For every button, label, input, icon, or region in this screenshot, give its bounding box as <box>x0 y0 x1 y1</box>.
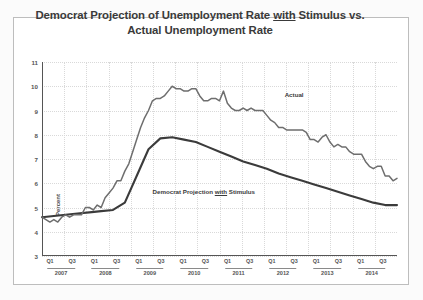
year-bracket <box>358 268 386 269</box>
x-tick-label-quarter: Q1 <box>357 258 364 264</box>
x-tick-label-quarter: Q3 <box>335 258 342 264</box>
chart-page: Democrat Projection of Unemployment Rate… <box>0 0 423 300</box>
x-axis-year-group: 2011 <box>225 268 253 276</box>
y-tick-label: 5 <box>35 204 38 211</box>
y-tick-label: 9 <box>35 107 38 114</box>
x-tick-label-quarter: Q3 <box>246 258 253 264</box>
year-bracket <box>314 268 342 269</box>
x-axis-year-group: 2008 <box>92 268 120 276</box>
x-axis-year-group: 2012 <box>269 268 297 276</box>
y-tick-label: 7 <box>35 156 38 163</box>
year-label: 2010 <box>180 270 208 276</box>
x-tick-label-quarter: Q3 <box>379 258 386 264</box>
x-tick-label-quarter: Q1 <box>135 258 142 264</box>
annotation-projection: Democrat Projection with Stimulus <box>153 188 255 195</box>
title-underlined-with: with <box>273 9 295 21</box>
y-tick-label: 6 <box>35 180 38 187</box>
year-label: 2013 <box>314 270 342 276</box>
x-tick-label-quarter: Q3 <box>202 258 209 264</box>
y-tick-label: 4 <box>35 228 38 235</box>
x-axis-year-group: 2009 <box>136 268 164 276</box>
x-tick-label-quarter: Q1 <box>180 258 187 264</box>
year-label: 2007 <box>47 270 75 276</box>
year-bracket <box>225 268 253 269</box>
x-tick-label-quarter: Q3 <box>290 258 297 264</box>
title-text-before: Democrat Projection of Unemployment Rate <box>35 9 273 21</box>
line-democrat-projection <box>42 137 397 217</box>
x-tick-label-quarter: Q3 <box>113 258 120 264</box>
series-lines <box>42 62 397 256</box>
x-axis-year-group: 2013 <box>314 268 342 276</box>
annotation-projection-after: Stimulus <box>227 188 255 195</box>
title-line-two: Actual Unemployment Rate <box>127 24 273 36</box>
year-bracket <box>92 268 120 269</box>
year-label: 2014 <box>358 270 386 276</box>
x-axis-year-group: 2007 <box>47 268 75 276</box>
year-bracket <box>180 268 208 269</box>
year-label: 2009 <box>136 270 164 276</box>
y-tick-label: 11 <box>31 59 38 66</box>
x-tick-label-quarter: Q1 <box>268 258 275 264</box>
x-axis-year-group: 2014 <box>358 268 386 276</box>
year-bracket <box>47 268 75 269</box>
y-tick-label: 10 <box>31 83 38 90</box>
annotation-actual: Actual <box>285 91 304 98</box>
annotation-projection-with: with <box>215 188 227 195</box>
x-tick-label-quarter: Q1 <box>224 258 231 264</box>
x-tick-label-quarter: Q1 <box>46 258 53 264</box>
annotation-projection-before: Democrat Projection <box>153 188 215 195</box>
year-label: 2012 <box>269 270 297 276</box>
annotation-actual-text: Actual <box>285 91 304 98</box>
x-tick-label-quarter: Q3 <box>157 258 164 264</box>
x-tick-label-quarter: Q1 <box>91 258 98 264</box>
plot-area: Percent 34567891011 Q1Q3Q1Q3Q1Q3Q1Q3Q1Q3… <box>42 62 397 256</box>
y-tick-label: 3 <box>35 253 38 260</box>
chart-title: Democrat Projection of Unemployment Rate… <box>20 8 380 38</box>
title-text-after: Stimulus vs. <box>296 9 365 21</box>
y-tick-label: 8 <box>35 131 38 138</box>
year-bracket <box>269 268 297 269</box>
x-tick-label-quarter: Q3 <box>69 258 76 264</box>
x-tick-label-quarter: Q1 <box>313 258 320 264</box>
year-label: 2011 <box>225 270 253 276</box>
line-actual-unemployment <box>42 86 397 222</box>
x-axis-year-group: 2010 <box>180 268 208 276</box>
year-label: 2008 <box>92 270 120 276</box>
year-bracket <box>136 268 164 269</box>
gridline-horizontal <box>42 256 397 257</box>
